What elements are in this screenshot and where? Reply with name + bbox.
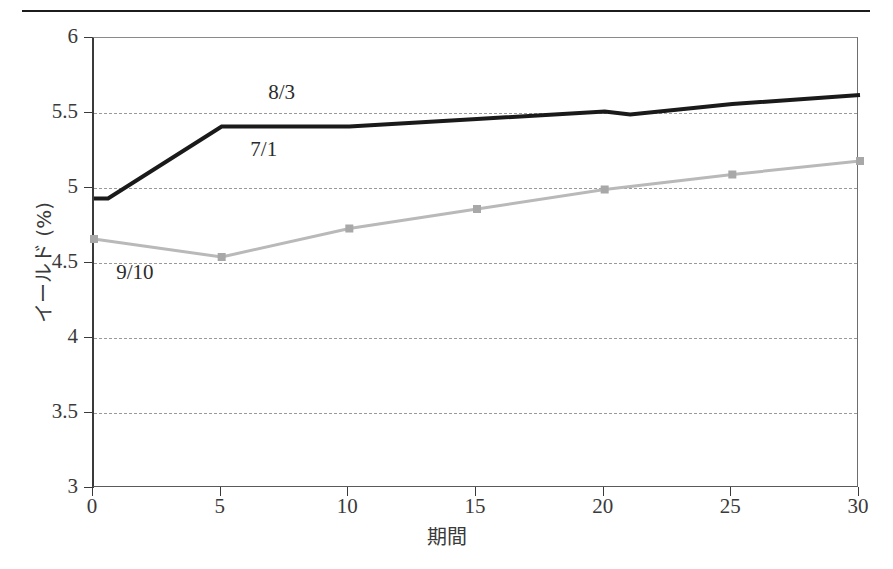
yield-curve-chart: イールド (%) 33.544.555.56 051015202530 8/37… bbox=[0, 0, 893, 569]
y-axis-tick-label: 5 bbox=[20, 176, 78, 197]
plot-area bbox=[92, 37, 858, 487]
series-marker bbox=[856, 157, 864, 165]
series-marker bbox=[218, 253, 226, 261]
x-axis-tick-label: 25 bbox=[700, 494, 760, 518]
series-marker bbox=[90, 235, 98, 243]
data-annotation-label: 9/10 bbox=[116, 262, 153, 283]
series-marker bbox=[473, 205, 481, 213]
series-line bbox=[94, 95, 860, 199]
x-axis-tick-label: 20 bbox=[573, 494, 633, 518]
x-axis-tick-label: 30 bbox=[828, 494, 888, 518]
x-axis-tick-label: 15 bbox=[445, 494, 505, 518]
y-axis-tick-label: 5.5 bbox=[20, 101, 78, 122]
series-marker bbox=[345, 225, 353, 233]
x-axis-tick-label: 10 bbox=[317, 494, 377, 518]
y-axis-tick-label: 3.5 bbox=[20, 401, 78, 422]
series-marker bbox=[728, 171, 736, 179]
y-axis-tick-label: 4 bbox=[20, 326, 78, 347]
x-axis-tick-label: 5 bbox=[190, 494, 250, 518]
x-axis-title: 期間 bbox=[0, 521, 893, 550]
series-marker bbox=[601, 186, 609, 194]
x-axis-tick-label: 0 bbox=[62, 494, 122, 518]
series-layer bbox=[94, 38, 860, 488]
y-axis-tick-label: 4.5 bbox=[20, 251, 78, 272]
y-axis-tick-label: 6 bbox=[20, 26, 78, 47]
data-annotation-label: 8/3 bbox=[268, 82, 295, 103]
data-annotation-label: 7/1 bbox=[250, 139, 277, 160]
